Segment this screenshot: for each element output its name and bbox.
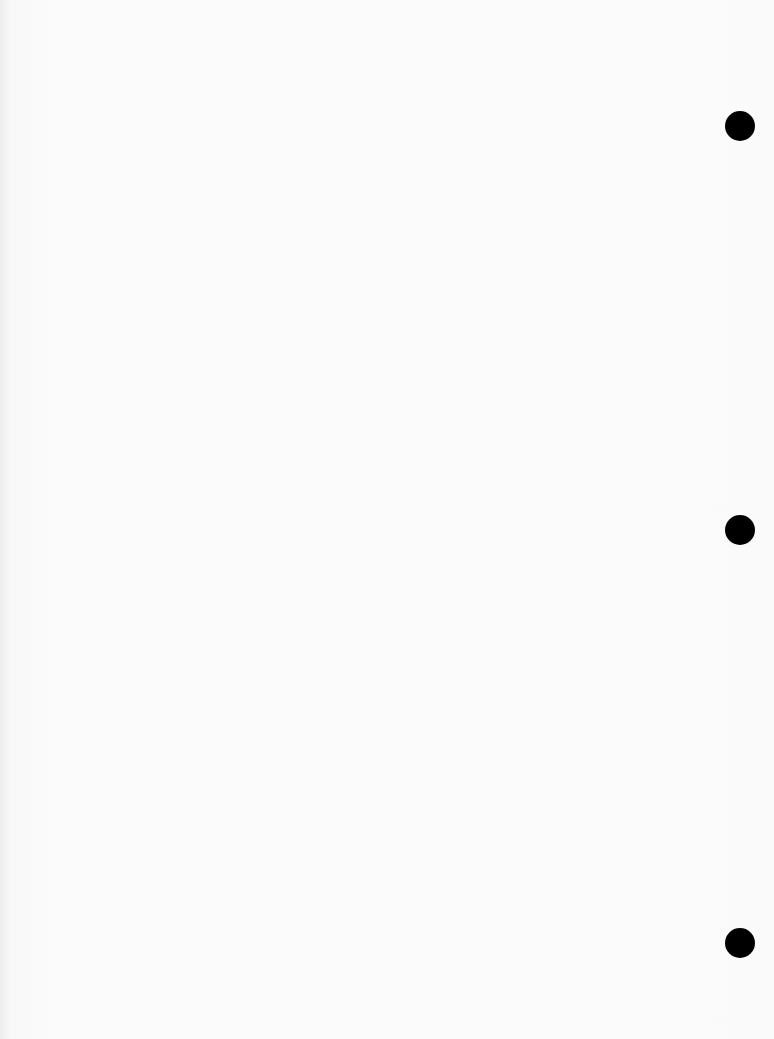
bleed-through-text-block-1 (0, 240, 774, 400)
punch-hole-middle (725, 515, 755, 545)
punch-hole-bottom (725, 928, 755, 958)
bleed-through-text-block-2 (0, 650, 774, 730)
scanned-page (0, 0, 774, 1039)
punch-hole-top (725, 111, 755, 141)
